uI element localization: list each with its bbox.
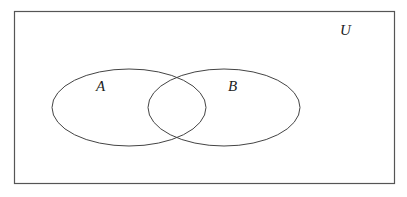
set-a-ellipse xyxy=(52,69,206,146)
universe-rectangle xyxy=(15,12,395,184)
set-b-ellipse xyxy=(148,69,300,146)
venn-diagram: U A B xyxy=(0,0,407,197)
universe-label: U xyxy=(340,22,352,38)
set-a-label: A xyxy=(95,78,106,94)
set-b-label: B xyxy=(228,78,237,94)
